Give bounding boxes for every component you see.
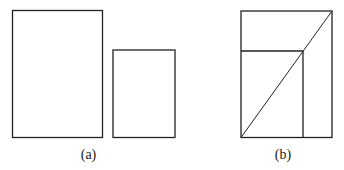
diagonal-line: [241, 11, 332, 138]
diagram-canvas: (a) (b): [0, 0, 344, 170]
small-rectangle: [113, 50, 175, 138]
figure-b: [241, 11, 332, 138]
figure-b-label: (b): [275, 147, 292, 163]
large-rectangle: [13, 11, 103, 138]
figure-a: [13, 11, 176, 138]
figure-a-label: (a): [81, 147, 97, 163]
